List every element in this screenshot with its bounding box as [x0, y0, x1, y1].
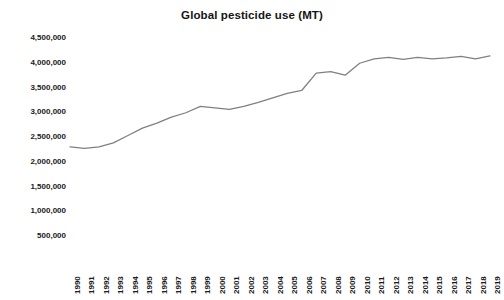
- x-axis: 1990199119921993199419951996199719981999…: [0, 0, 504, 300]
- x-tick-label: 2006: [306, 276, 314, 294]
- x-tick-label: 2012: [393, 276, 401, 294]
- x-tick-label: 2001: [233, 276, 241, 294]
- x-tick-label: 1994: [132, 276, 140, 294]
- x-tick-label: 2007: [320, 276, 328, 294]
- x-tick-label: 2011: [378, 277, 386, 294]
- x-tick-label: 1998: [190, 276, 198, 294]
- x-tick-label: 2000: [219, 276, 227, 294]
- x-tick-label: 2008: [335, 276, 343, 294]
- x-tick-label: 1999: [204, 276, 212, 294]
- x-tick-label: 2014: [422, 276, 430, 294]
- x-tick-label: 2015: [436, 276, 444, 294]
- x-tick-label: 1997: [175, 276, 183, 294]
- x-tick-label: 2005: [291, 276, 299, 294]
- x-tick-label: 2016: [451, 276, 459, 294]
- x-tick-label: 2004: [277, 276, 285, 294]
- x-tick-label: 1992: [103, 276, 111, 294]
- x-tick-label: 1993: [117, 276, 125, 294]
- x-tick-label: 2010: [364, 276, 372, 294]
- x-tick-label: 2002: [248, 276, 256, 294]
- x-tick-label: 1995: [146, 276, 154, 294]
- x-tick-label: 1990: [74, 276, 82, 294]
- x-tick-label: 1991: [88, 276, 96, 294]
- x-tick-label: 2019: [494, 276, 502, 294]
- x-tick-label: 2003: [262, 276, 270, 294]
- x-tick-label: 1996: [161, 276, 169, 294]
- x-tick-label: 2018: [480, 276, 488, 294]
- chart-container: Global pesticide use (MT) 500,0001,000,0…: [0, 0, 504, 300]
- x-tick-label: 2013: [407, 276, 415, 294]
- x-tick-label: 2009: [349, 276, 357, 294]
- x-tick-label: 2017: [465, 276, 473, 294]
